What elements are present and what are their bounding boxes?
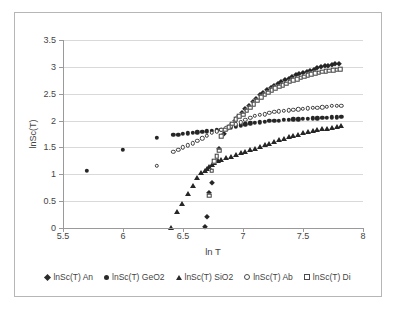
data-point [181, 132, 185, 136]
x-axis-tick-label: 6 [120, 231, 125, 241]
data-point [262, 112, 266, 116]
data-point [282, 118, 286, 122]
y-axis-tick [59, 201, 63, 202]
data-point [209, 180, 215, 186]
data-point [320, 105, 324, 109]
data-point [154, 136, 158, 140]
data-point [339, 115, 343, 119]
data-point [296, 107, 300, 111]
data-point [212, 159, 217, 164]
y-axis-tick [59, 174, 63, 175]
x-axis-title: ln T [205, 246, 221, 257]
y-axis-tick-label: 0.5 [43, 196, 56, 206]
data-point [253, 121, 257, 125]
y-axis-line [63, 40, 64, 229]
data-point [325, 104, 329, 108]
data-point [154, 163, 158, 167]
gridline [63, 174, 363, 175]
data-point [190, 183, 196, 188]
data-point [205, 133, 209, 137]
data-point [219, 134, 224, 139]
y-axis-tick-label: 3 [51, 62, 56, 72]
data-point [310, 105, 314, 109]
y-axis-tick [59, 94, 63, 95]
data-point [291, 108, 295, 112]
y-axis-tick [59, 121, 63, 122]
x-axis-tick [183, 228, 184, 232]
data-point [214, 129, 218, 133]
data-point [334, 115, 338, 119]
gridline [63, 147, 363, 148]
legend-item[interactable]: lnSc(T) SiO2 [176, 272, 234, 282]
data-point [286, 108, 290, 112]
data-point [195, 130, 199, 134]
data-point [121, 147, 125, 151]
data-point [200, 136, 204, 140]
x-axis-tick [303, 228, 304, 232]
data-point [258, 112, 262, 116]
legend-item[interactable]: lnSc(T) Di [304, 272, 351, 282]
data-point [210, 131, 214, 135]
legend-item[interactable]: lnSc(T) An [45, 272, 93, 282]
data-point [200, 130, 204, 134]
data-point [286, 118, 290, 122]
data-point [85, 169, 89, 173]
y-axis-tick-label: 1 [51, 169, 56, 179]
x-axis-tick-label: 5.5 [57, 231, 70, 241]
data-point [181, 145, 185, 149]
data-point [338, 67, 343, 72]
legend-item[interactable]: lnSc(T) Ab [244, 272, 293, 282]
legend-label: lnSc(T) GeO2 [112, 272, 164, 282]
chart-legend: lnSc(T) AnlnSc(T) GeO2lnSc(T) SiO2lnSc(T… [0, 272, 396, 282]
x-axis-tick [363, 228, 364, 232]
data-point [190, 131, 194, 135]
legend-label: lnSc(T) Di [313, 272, 351, 282]
x-axis-tick [123, 228, 124, 232]
data-point [176, 132, 180, 136]
x-axis-tick-label: 6.5 [177, 231, 190, 241]
data-point [272, 118, 276, 122]
data-point [179, 201, 185, 206]
y-axis-tick-label: 0 [51, 223, 56, 233]
data-point [277, 118, 281, 122]
y-axis-tick [59, 40, 63, 41]
data-point [185, 191, 191, 196]
x-axis-tick [63, 228, 64, 232]
data-point [277, 109, 281, 113]
y-axis-tick [59, 67, 63, 68]
data-point [176, 147, 180, 151]
data-point [253, 114, 257, 118]
data-point [171, 133, 175, 137]
legend-label: lnSc(T) An [53, 272, 93, 282]
data-point [174, 209, 180, 214]
y-axis-tick-label: 1.5 [43, 142, 56, 152]
open-circle-marker-icon [244, 274, 250, 280]
circle-marker-icon [104, 275, 109, 280]
data-point [267, 111, 271, 115]
data-point [201, 224, 207, 230]
legend-label: lnSc(T) SiO2 [185, 272, 234, 282]
data-point [272, 110, 276, 114]
data-point [262, 119, 266, 123]
data-point [339, 103, 343, 107]
data-point [186, 131, 190, 135]
x-axis-line [63, 228, 364, 229]
y-axis-tick-label: 2 [51, 116, 56, 126]
data-point [334, 104, 338, 108]
triangle-marker-icon [176, 275, 182, 280]
data-point [248, 116, 252, 120]
data-point [195, 139, 199, 143]
data-point [243, 118, 247, 122]
gridline [63, 121, 363, 122]
data-point [210, 168, 215, 173]
data-point [338, 123, 344, 128]
gridline [63, 94, 363, 95]
x-axis-tick-label: 7.5 [297, 231, 310, 241]
legend-item[interactable]: lnSc(T) GeO2 [104, 272, 164, 282]
x-axis-tick [243, 228, 244, 232]
diamond-marker-icon [44, 273, 51, 280]
y-axis-tick-label: 3.5 [43, 35, 56, 45]
data-point [325, 116, 329, 120]
data-point [282, 109, 286, 113]
data-point [217, 148, 222, 153]
